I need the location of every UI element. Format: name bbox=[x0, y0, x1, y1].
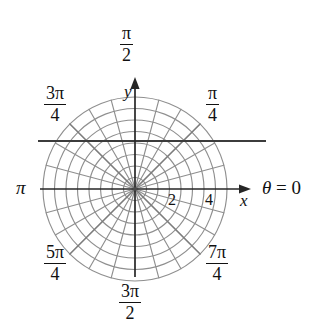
angle-label-3pi-over-4-numerator: 3π bbox=[44, 84, 66, 105]
angle-label-5pi-over-4: 5π 4 bbox=[44, 243, 66, 284]
angle-label-pi-over-2-numerator: π bbox=[120, 24, 133, 45]
angle-label-3pi-over-2-denominator: 2 bbox=[119, 303, 141, 323]
angle-label-5pi-over-4-numerator: 5π bbox=[44, 243, 66, 264]
theta-symbol: θ bbox=[262, 177, 271, 198]
theta-equals-sign: = bbox=[271, 177, 291, 198]
polar-origin-marker bbox=[133, 187, 137, 191]
angle-label-3pi-over-2-numerator: 3π bbox=[119, 282, 141, 303]
angle-label-pi-over-4-denominator: 4 bbox=[206, 105, 219, 125]
y-axis-label: y bbox=[124, 83, 132, 100]
angle-label-7pi-over-4-numerator: 7π bbox=[206, 243, 228, 264]
angle-label-7pi-over-4: 7π 4 bbox=[206, 243, 228, 284]
angle-label-5pi-over-4-denominator: 4 bbox=[44, 264, 66, 284]
angle-label-theta-equals-zero: θ = 0 bbox=[262, 178, 301, 197]
polar-grid-figure: π 2 π 4 3π 4 π θ = 0 5π 4 7π 4 bbox=[0, 0, 327, 333]
angle-label-3pi-over-4: 3π 4 bbox=[44, 84, 66, 125]
angle-label-pi-over-2: π 2 bbox=[120, 24, 133, 65]
radial-tick-label-4: 4 bbox=[205, 192, 213, 208]
theta-value: 0 bbox=[292, 177, 302, 198]
angle-label-pi-over-2-denominator: 2 bbox=[120, 45, 133, 65]
angle-label-pi-over-4: π 4 bbox=[206, 84, 219, 125]
radial-tick-label-2: 2 bbox=[168, 192, 176, 208]
angle-label-3pi-over-2: 3π 2 bbox=[119, 282, 141, 323]
angle-label-7pi-over-4-denominator: 4 bbox=[206, 264, 228, 284]
angle-label-3pi-over-4-denominator: 4 bbox=[44, 105, 66, 125]
angle-label-pi: π bbox=[16, 178, 26, 197]
x-axis-label: x bbox=[240, 192, 248, 209]
angle-label-pi-over-4-numerator: π bbox=[206, 84, 219, 105]
polar-grid-group bbox=[38, 77, 266, 281]
